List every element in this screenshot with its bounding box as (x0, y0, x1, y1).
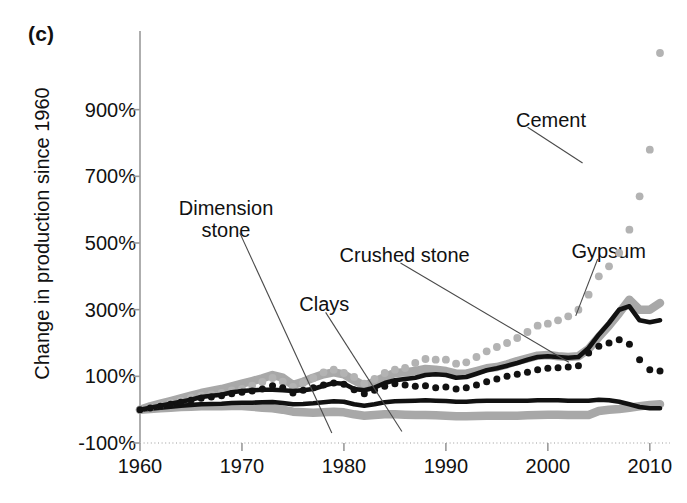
data-point (279, 384, 286, 391)
data-point (391, 380, 398, 387)
data-point (453, 386, 460, 393)
data-point (513, 334, 521, 342)
data-point (544, 320, 552, 328)
data-point (575, 362, 582, 369)
data-point (249, 388, 256, 395)
chart-plot-area (0, 0, 687, 503)
data-point (320, 382, 327, 389)
data-point (371, 375, 379, 383)
data-point (340, 381, 347, 388)
data-point (564, 312, 572, 320)
data-point (606, 340, 613, 347)
data-point (544, 365, 551, 372)
data-point (238, 389, 245, 396)
data-point (504, 373, 511, 380)
leader-line (576, 259, 598, 316)
data-point (381, 383, 388, 390)
data-point (554, 316, 562, 324)
data-point (422, 382, 429, 389)
data-point (289, 390, 296, 397)
data-point (360, 380, 368, 388)
data-point (524, 369, 531, 376)
data-point (350, 373, 358, 381)
data-point (493, 376, 500, 383)
data-point (534, 366, 541, 373)
data-point (503, 339, 511, 347)
data-point (636, 356, 643, 363)
data-point (626, 226, 634, 234)
data-point (646, 146, 654, 154)
data-point (636, 192, 644, 200)
data-point (585, 291, 593, 299)
data-point (483, 347, 491, 355)
data-point (657, 368, 664, 375)
data-point (269, 382, 276, 389)
data-point (411, 359, 419, 367)
data-point (616, 336, 623, 343)
data-point (605, 262, 613, 270)
data-point (167, 401, 174, 408)
data-point (483, 378, 490, 385)
data-point (299, 379, 307, 387)
data-point (320, 368, 328, 376)
data-point (514, 371, 521, 378)
data-point (422, 355, 430, 363)
data-point (258, 378, 266, 386)
data-point (198, 395, 205, 402)
data-point (269, 374, 277, 382)
data-point (442, 384, 449, 391)
data-point (208, 394, 215, 401)
data-point (473, 353, 481, 361)
data-point (309, 374, 317, 382)
data-point (402, 382, 409, 389)
series-cement (136, 49, 664, 413)
data-point (157, 403, 164, 410)
data-point (615, 249, 623, 257)
data-point (595, 343, 602, 350)
data-point (524, 328, 532, 336)
data-point (565, 364, 572, 371)
data-point (361, 390, 368, 397)
data-point (585, 350, 592, 357)
leader-line (528, 127, 583, 163)
data-point (493, 343, 501, 351)
data-point (595, 272, 603, 280)
leader-line (401, 263, 569, 362)
data-point (626, 341, 633, 348)
data-point (187, 397, 194, 404)
data-point (401, 364, 409, 372)
data-point (646, 366, 653, 373)
data-point (534, 322, 542, 330)
data-point (228, 390, 235, 397)
data-point (473, 382, 480, 389)
data-point (412, 383, 419, 390)
data-point (300, 387, 307, 394)
data-point (330, 380, 337, 387)
figure-panel-c: (c) Change in production since 1960 900%… (0, 0, 687, 503)
data-point (391, 366, 399, 374)
data-point (351, 386, 358, 393)
data-point (381, 369, 389, 377)
data-point (555, 364, 562, 371)
data-point (330, 366, 338, 374)
data-point (432, 356, 440, 364)
data-point (452, 360, 460, 368)
data-point (147, 405, 154, 412)
data-point (137, 406, 144, 413)
data-point (218, 392, 225, 399)
data-point (462, 358, 470, 366)
data-point (432, 384, 439, 391)
data-point (177, 399, 184, 406)
data-point (259, 386, 266, 393)
data-point (340, 369, 348, 377)
data-point (463, 384, 470, 391)
data-point (442, 356, 450, 364)
data-point (656, 49, 664, 57)
